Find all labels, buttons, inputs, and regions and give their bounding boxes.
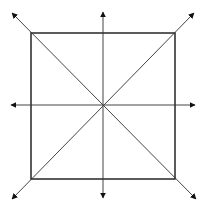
symmetry-lines-diagram [0, 0, 207, 209]
arrow-lines [11, 12, 196, 199]
